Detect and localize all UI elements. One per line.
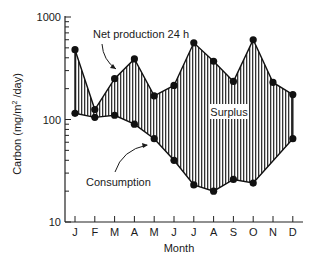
x-tick-label: J: [191, 226, 197, 238]
net-production-point: [111, 75, 118, 82]
consumption-label: Consumption: [86, 176, 151, 188]
net-production-label: Net production 24 h: [93, 28, 189, 40]
net-production-arrow: [102, 44, 116, 69]
x-tick-label: D: [289, 226, 297, 238]
net-production-point: [190, 39, 197, 46]
net-production-point: [71, 46, 78, 53]
consumption-point: [210, 188, 217, 195]
x-tick-label: S: [230, 226, 237, 238]
x-tick-label: F: [91, 226, 98, 238]
net-production-point: [269, 79, 276, 86]
consumption-point: [289, 135, 296, 142]
x-tick-label: A: [210, 226, 218, 238]
y-axis-label: Carbon (mg/m2 /day): [11, 73, 23, 175]
x-tick-label: M: [110, 226, 119, 238]
net-production-point: [170, 82, 177, 89]
surplus-label: Surplus: [210, 106, 248, 118]
net-production-point: [131, 55, 138, 62]
chart-canvas: 101001000 JFMAMJJASOND Carbon (mg/m2 /da…: [0, 0, 314, 259]
y-tick-label: 10: [49, 216, 61, 228]
consumption-point: [111, 112, 118, 119]
net-production-point: [91, 106, 98, 113]
x-tick-label: N: [269, 226, 277, 238]
x-tick-label: O: [249, 226, 258, 238]
x-tick-label: J: [72, 226, 78, 238]
consumption-point: [151, 135, 158, 142]
x-axis-label: Month: [164, 242, 195, 254]
x-tick-label: M: [150, 226, 159, 238]
consumption-point: [170, 157, 177, 164]
net-production-point: [151, 92, 158, 99]
y-axis: 101001000: [37, 11, 71, 228]
consumption-point: [190, 181, 197, 188]
y-tick-label: 1000: [37, 11, 61, 23]
x-axis: JFMAMJJASOND: [65, 216, 303, 238]
consumption-point: [230, 176, 237, 183]
consumption-point: [131, 121, 138, 128]
consumption-point: [250, 179, 257, 186]
net-production-point: [210, 58, 217, 65]
consumption-arrowhead: [142, 143, 148, 148]
x-tick-label: A: [131, 226, 139, 238]
consumption-point: [71, 110, 78, 117]
consumption-arrow: [115, 145, 147, 172]
x-tick-label: J: [171, 226, 177, 238]
y-tick-label: 100: [43, 114, 61, 126]
net-production-point: [230, 78, 237, 85]
net-production-point: [289, 91, 296, 98]
net-production-point: [250, 36, 257, 43]
consumption-point: [91, 114, 98, 121]
